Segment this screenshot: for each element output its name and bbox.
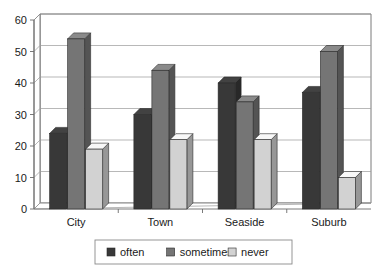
bar-front-face [170,140,187,209]
bar-city-never [86,143,109,209]
bar-front-face [152,70,169,209]
legend-item-often[interactable]: often [107,246,144,258]
bar-side-face [103,143,109,209]
y-tick-label-10: 10 [15,172,27,184]
bar-chart: 0102030405060CityTownSeasideSuburboftens… [0,0,384,278]
y-tick-label-50: 50 [15,46,27,58]
y-tick-label-40: 40 [15,77,27,89]
x-tick-label-suburb: Suburb [311,216,346,228]
bar-front-face [320,52,337,210]
legend-swatch-never [228,248,236,256]
x-tick-label-city: City [67,216,86,228]
bar-side-face [187,134,193,209]
bar-front-face [86,149,103,209]
legend-label-often: often [120,246,144,258]
legend-swatch-sometimes [167,248,175,256]
legend-swatch-often [107,248,115,256]
bar-front-face [50,133,67,209]
bar-town-never [170,134,193,209]
bar-front-face [134,115,151,210]
bar-front-face [302,92,319,209]
bar-suburb-never [338,172,361,210]
chart-canvas: 0102030405060CityTownSeasideSuburboftens… [0,0,384,278]
bar-side-face [271,134,277,209]
y-tick-label-30: 30 [15,109,27,121]
bar-front-face [338,178,355,210]
x-tick-label-seaside: Seaside [225,216,265,228]
y-tick-label-20: 20 [15,140,27,152]
bar-front-face [218,83,235,209]
y-tick-label-0: 0 [21,203,27,215]
y-tick-label-60: 60 [15,14,27,26]
legend-label-sometimes: sometimes [180,246,234,258]
x-tick-label-town: Town [148,216,174,228]
legend-label-never: never [241,246,269,258]
bar-front-face [236,102,253,209]
bar-seaside-never [254,134,277,209]
bar-front-face [254,140,271,209]
bar-side-face [355,172,361,210]
legend-item-never[interactable]: never [228,246,269,258]
bar-front-face [68,39,85,209]
